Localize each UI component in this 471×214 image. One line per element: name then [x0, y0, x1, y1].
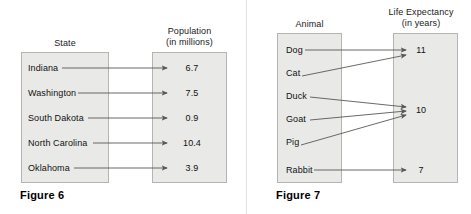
figure6-range-item-2[interactable]: 0.9	[170, 113, 214, 123]
figure7-domain-header: Animal	[277, 19, 342, 30]
figure6-range-item-4[interactable]: 3.9	[170, 163, 214, 173]
figure6-domain-item-1[interactable]: Washington	[28, 88, 76, 98]
figure7-range-item-0[interactable]: 11	[409, 45, 433, 55]
figure6-domain-item-4[interactable]: Oklahoma	[28, 163, 70, 173]
figure6-domain-header: State	[21, 38, 109, 49]
figure-6: State Population (in millions) Indiana W…	[0, 0, 246, 214]
figure7-domain-item-5[interactable]: Rabbit	[286, 165, 313, 175]
figure7-domain-item-4[interactable]: Pig	[286, 137, 299, 147]
figure6-domain-item-0[interactable]: Indiana	[28, 63, 58, 73]
figure6-range-header-line1: Population	[152, 26, 227, 37]
figure6-range-item-0[interactable]: 6.7	[170, 63, 214, 73]
figure6-domain-item-2[interactable]: South Dakota	[28, 113, 84, 123]
figure7-domain-item-0[interactable]: Dog	[286, 45, 303, 55]
worksheet-page: State Population (in millions) Indiana W…	[0, 0, 471, 214]
figure7-domain-item-2[interactable]: Duck	[286, 91, 307, 101]
figure7-range-item-1[interactable]: 10	[409, 105, 433, 115]
figure6-range-header-line2: (in millions)	[152, 37, 227, 48]
figure6-range-item-3[interactable]: 10.4	[170, 138, 214, 148]
figure7-domain-box	[277, 33, 342, 183]
figure7-domain-item-3[interactable]: Goat	[286, 114, 306, 124]
figure6-range-item-1[interactable]: 7.5	[170, 88, 214, 98]
figure6-domain-item-3[interactable]: North Carolina	[28, 138, 87, 148]
figure7-domain-item-1[interactable]: Cat	[286, 68, 300, 78]
figure6-caption: Figure 6	[20, 189, 64, 201]
figure7-caption: Figure 7	[276, 189, 320, 201]
figure7-range-header-line1: Life Expectancy	[379, 7, 463, 18]
figure-7: Animal Life Expectancy (in years) Dog Ca…	[246, 0, 471, 214]
figure7-range-header-line2: (in years)	[379, 18, 463, 29]
figure7-range-item-2[interactable]: 7	[409, 165, 433, 175]
